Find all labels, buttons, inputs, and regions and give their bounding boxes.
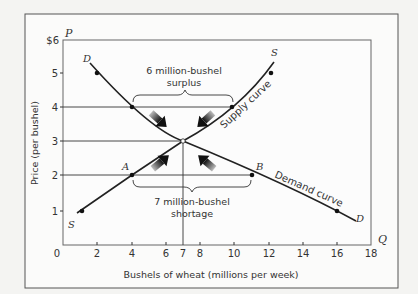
- x-tick-4: 4: [129, 248, 135, 259]
- y-tick-1: 1: [52, 206, 58, 217]
- x-tick-0: 0: [54, 248, 60, 259]
- demand-start-label: D: [82, 53, 91, 64]
- supply-end-label: S: [271, 47, 278, 58]
- point-b-label: B: [255, 161, 263, 172]
- x-tick-8: 8: [197, 248, 203, 259]
- x-tick-18: 18: [365, 248, 378, 259]
- y-tick-5: 5: [52, 68, 58, 79]
- x-tick-12: 12: [263, 248, 276, 259]
- supply-start-label: S: [68, 219, 75, 230]
- x-tick-14: 14: [297, 248, 310, 259]
- y-tick-2: 2: [52, 170, 58, 181]
- x-tick-10: 10: [228, 248, 241, 259]
- supply-demand-chart: $6 5 4 3 2 1 0 2 4 6 7 8 10 12 14 16 18 …: [0, 0, 418, 294]
- x-axis-label: Bushels of wheat (millions per week): [123, 269, 298, 280]
- demand-end-label: D: [355, 213, 364, 224]
- x-tick-7: 7: [180, 248, 186, 259]
- shortage-label-line1: 7 million-bushel: [154, 196, 230, 207]
- x-tick-16: 16: [331, 248, 344, 259]
- equilibrium-point: [181, 139, 185, 143]
- point-a-label: A: [121, 161, 129, 172]
- shortage-label-line2: shortage: [171, 208, 213, 219]
- x-tick-2: 2: [94, 248, 100, 259]
- y-tick-4: 4: [52, 102, 58, 113]
- y-axis-symbol: P: [64, 27, 73, 40]
- x-tick-6: 6: [163, 248, 169, 259]
- y-axis-label: Price (per bushel): [29, 101, 40, 185]
- y-tick-3: 3: [52, 136, 58, 147]
- surplus-label-line1: 6 million-bushel: [146, 65, 222, 76]
- surplus-label-line2: surplus: [167, 77, 202, 88]
- y-tick-6: $6: [46, 35, 59, 46]
- x-axis-symbol: Q: [378, 233, 387, 246]
